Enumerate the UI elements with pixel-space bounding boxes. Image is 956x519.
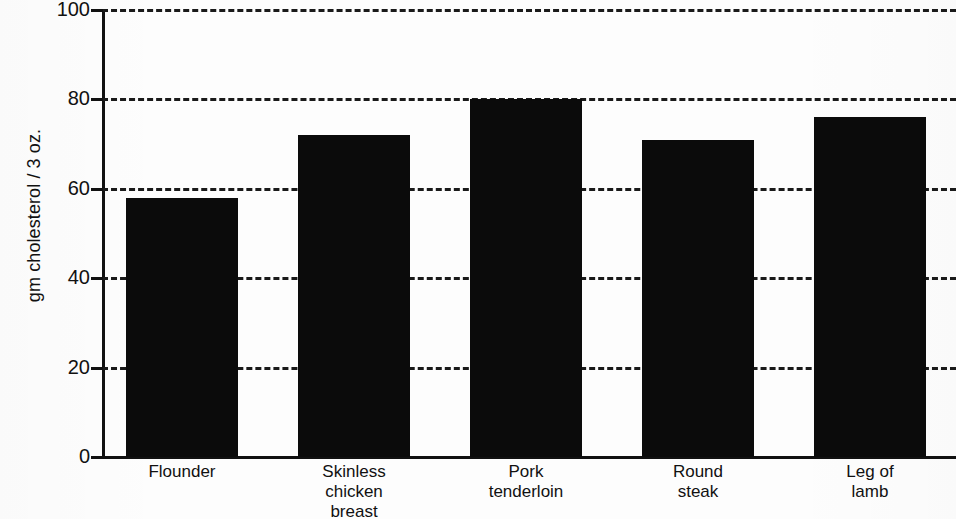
y-axis-tick-label: 80 — [34, 88, 90, 108]
bars — [102, 10, 956, 457]
x-axis-category-label-line: steak — [622, 482, 774, 502]
x-axis-category-label-line: Round — [622, 462, 774, 482]
x-axis-category-label-line: Pork — [450, 462, 602, 482]
bar — [126, 198, 238, 457]
x-axis-category-label-line: chicken — [278, 482, 430, 502]
x-axis-category-labels: FlounderSkinlesschickenbreastPorktenderl… — [102, 462, 956, 519]
x-axis-category-label-line: Flounder — [106, 462, 258, 482]
y-axis-tick-labels: 020406080100 — [28, 0, 90, 519]
plot-area — [102, 10, 956, 457]
y-axis-tick-label: 100 — [34, 0, 90, 19]
y-axis-tick-label: 0 — [34, 446, 90, 466]
y-axis-tick-label: 20 — [34, 357, 90, 377]
bar — [298, 135, 410, 457]
x-axis-category-label: Skinlesschickenbreast — [278, 462, 430, 519]
x-axis-category-label-line: tenderloin — [450, 482, 602, 502]
x-axis-category-label-line: Skinless — [278, 462, 430, 482]
x-axis-category-label: Roundsteak — [622, 462, 774, 502]
x-axis-category-label-line: lamb — [794, 482, 946, 502]
x-axis-category-label-line: breast — [278, 502, 430, 519]
bar — [470, 99, 582, 457]
bar — [814, 117, 926, 457]
y-axis-tick-label: 40 — [34, 267, 90, 287]
x-axis-category-label: Flounder — [106, 462, 258, 482]
y-axis-tick-label: 60 — [34, 178, 90, 198]
bar — [642, 140, 754, 457]
x-axis-category-label: Porktenderloin — [450, 462, 602, 502]
x-axis-category-label-line: Leg of — [794, 462, 946, 482]
bar-chart: gm cholesterol / 3 oz. 020406080100 Flou… — [0, 0, 956, 519]
x-axis-category-label: Leg oflamb — [794, 462, 946, 502]
